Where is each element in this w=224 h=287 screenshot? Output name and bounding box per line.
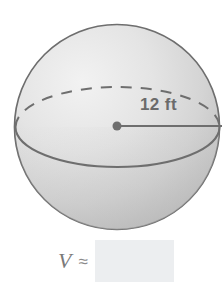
sphere-figure: 12 ft V ≈ [0, 0, 224, 287]
volume-answer-row: V ≈ [58, 240, 174, 282]
radius-measurement-label: 12 ft [140, 96, 177, 113]
approximately-equal-sign: ≈ [78, 253, 87, 270]
sphere-center-dot [113, 122, 122, 131]
volume-answer-input[interactable] [95, 240, 174, 282]
volume-symbol: V [58, 250, 71, 272]
sphere-lower-shading [0, 127, 224, 237]
